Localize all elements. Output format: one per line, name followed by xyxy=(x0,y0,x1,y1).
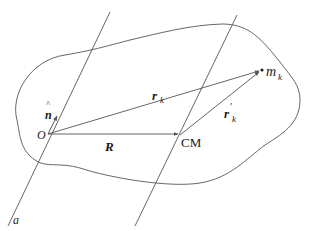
mass-subscript: k xyxy=(278,72,283,82)
r-k-label: r xyxy=(152,88,158,103)
axis-a-line xyxy=(8,12,110,226)
n-hat-label: n xyxy=(45,108,52,122)
r-k-subscript: k xyxy=(160,95,165,105)
r-prime-k-subscript: k xyxy=(232,114,237,124)
rigid-body-outline xyxy=(16,24,300,184)
r-prime-mark: ′ xyxy=(230,101,232,112)
axis-a-label: a xyxy=(13,213,19,227)
R-label: R xyxy=(104,139,114,154)
cm-label: CM xyxy=(181,135,202,150)
diagram-canvas: O ^ n a r k R CM r ′ k m k xyxy=(0,0,311,231)
mass-label: m xyxy=(266,64,276,79)
origin-label: O xyxy=(37,128,46,142)
mass-point xyxy=(260,68,263,71)
parallel-axis-line xyxy=(135,15,237,226)
r-prime-k-arrow xyxy=(180,72,259,135)
